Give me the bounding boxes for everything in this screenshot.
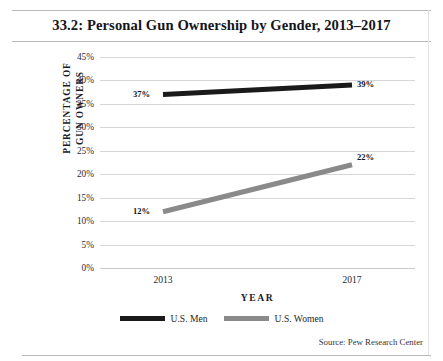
point-label-women-2017: 22% xyxy=(357,152,374,162)
chart-legend: U.S. Men U.S. Women xyxy=(0,313,443,324)
legend-label-us-men: U.S. Men xyxy=(171,313,208,324)
point-label-men-2017: 39% xyxy=(357,79,374,89)
legend-swatch-icon-us-men xyxy=(120,316,165,321)
legend-item-us-men[interactable]: U.S. Men xyxy=(120,313,208,324)
figure-container: 33.2: Personal Gun Ownership by Gender, … xyxy=(0,0,443,361)
series-line-us-women xyxy=(163,165,352,212)
point-label-women-2013: 12% xyxy=(133,206,150,216)
x-axis-title: YEAR xyxy=(100,292,415,303)
series-overlay xyxy=(0,0,443,361)
series-line-us-men xyxy=(163,85,352,94)
x-tick-label-2013: 2013 xyxy=(128,274,198,285)
legend-label-us-women: U.S. Women xyxy=(275,313,324,324)
source-note: Source: Pew Research Center xyxy=(0,337,423,347)
legend-swatch-icon-us-women xyxy=(224,316,269,321)
point-label-men-2013: 37% xyxy=(133,89,150,99)
bottom-divider xyxy=(22,355,431,356)
legend-item-us-women[interactable]: U.S. Women xyxy=(224,313,324,324)
x-tick-label-2017: 2017 xyxy=(317,274,387,285)
